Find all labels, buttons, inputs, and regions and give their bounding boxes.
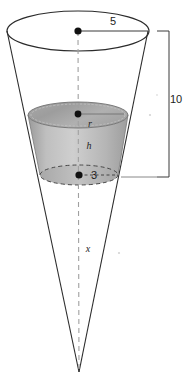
top-radius-dimension: 5 [74, 15, 148, 35]
label-liquid-height: h [87, 140, 92, 151]
cone-right-edge [79, 31, 148, 372]
label-liquid-radius: r [88, 118, 92, 129]
cone-left-edge [7, 31, 79, 372]
label-top-radius: 5 [110, 15, 116, 27]
geometry-figure: 5 r h 3 10 [0, 0, 193, 384]
scan-speck-icon [118, 252, 120, 254]
lower-center-dot [75, 171, 82, 178]
label-lower-radius: 3 [91, 169, 97, 181]
cone-outline [7, 31, 148, 372]
dimension-bracket: 10 [121, 31, 182, 177]
top-center-dot [74, 27, 81, 34]
scan-speck-icon [149, 114, 151, 116]
axis-length-dimension: x [85, 243, 91, 254]
cone-diagram-svg: 5 r h 3 10 [0, 0, 193, 384]
label-total-height: 10 [170, 93, 182, 105]
center-axis [78, 31, 79, 372]
axis-dashed-line [78, 31, 79, 372]
label-axis-length: x [85, 243, 91, 254]
scan-speck-icon [156, 94, 158, 96]
liquid-height-dimension: h [87, 140, 92, 151]
liquid-center-dot [75, 111, 82, 118]
